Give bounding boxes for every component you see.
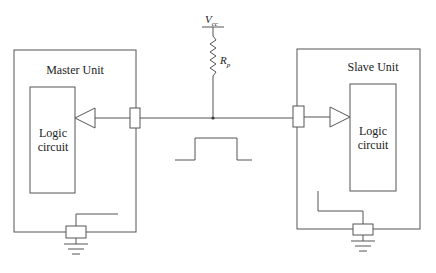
pullup-network: Vcc Rp [202,13,231,118]
master-bus-connector [130,108,140,128]
rp-label: Rp [219,54,231,69]
master-logic-label-2: circuit [38,140,69,154]
pulse-waveform-icon [175,138,252,160]
slave-ground-element [353,224,373,235]
slave-unit-title: Slave Unit [348,60,400,74]
master-ground-element [66,226,86,238]
circuit-diagram: Master Unit Logic circuit Vcc Rp Slave U… [0,0,436,273]
slave-unit: Slave Unit Logic circuit [293,49,420,251]
vcc-label: Vcc [205,13,219,28]
pullup-resistor-icon [210,36,216,76]
master-unit-title: Master Unit [46,63,104,77]
slave-bus-connector [293,106,304,127]
slave-logic-label-2: circuit [358,138,389,152]
master-unit: Master Unit Logic circuit [14,50,140,254]
slave-logic-label-1: Logic [359,124,387,138]
master-logic-label-1: Logic [39,126,67,140]
